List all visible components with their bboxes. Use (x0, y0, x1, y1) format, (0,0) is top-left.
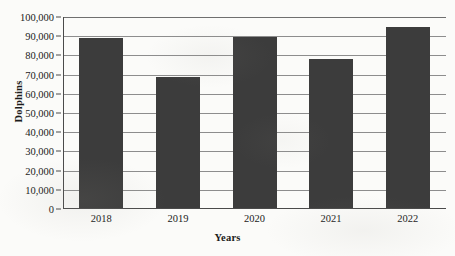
y-tick-mark (56, 189, 61, 190)
x-axis-line (63, 208, 446, 209)
y-tick-mark (56, 170, 61, 171)
y-tick-mark (56, 17, 61, 18)
x-tick-label: 2022 (397, 213, 418, 224)
y-tick-mark (56, 209, 61, 210)
x-tick-label: 2021 (321, 213, 342, 224)
y-tick-label: 0 (49, 204, 54, 215)
y-tick-mark (56, 36, 61, 37)
y-tick-mark (56, 55, 61, 56)
y-tick-mark (56, 93, 61, 94)
y-tick-label: 40,000 (25, 127, 54, 138)
bar-2019 (156, 77, 200, 208)
y-tick-label: 60,000 (25, 88, 54, 99)
bar-2021 (309, 59, 353, 208)
x-axis-tick-labels: 20182019202020212022 (63, 213, 446, 233)
x-tick-label: 2018 (91, 213, 112, 224)
gridline (63, 17, 446, 18)
y-tick-mark (56, 74, 61, 75)
y-tick-label: 80,000 (25, 50, 54, 61)
bar-2022 (386, 27, 430, 208)
plot-area (63, 17, 446, 209)
y-tick-mark (56, 151, 61, 152)
y-tick-mark (56, 113, 61, 114)
x-axis-title: Years (0, 232, 455, 243)
x-tick-label: 2020 (244, 213, 265, 224)
y-axis-tick-labels: 100,00090,00080,00070,00060,00050,00040,… (0, 0, 62, 256)
y-tick-mark (56, 132, 61, 133)
y-tick-label: 30,000 (25, 146, 54, 157)
y-axis-line (63, 17, 64, 209)
y-tick-label: 90,000 (25, 31, 54, 42)
y-tick-label: 100,000 (20, 12, 54, 23)
chart-figure: Dolphins 100,00090,00080,00070,00060,000… (0, 0, 455, 256)
y-tick-label: 70,000 (25, 69, 54, 80)
y-tick-label: 50,000 (25, 108, 54, 119)
bar-2020 (233, 37, 277, 208)
x-tick-label: 2019 (167, 213, 188, 224)
bar-2018 (79, 38, 123, 208)
y-tick-label: 20,000 (25, 165, 54, 176)
y-tick-label: 10,000 (25, 184, 54, 195)
